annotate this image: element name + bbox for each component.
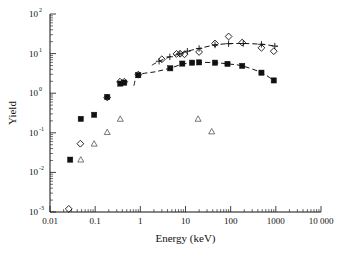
data-point-square — [180, 61, 185, 66]
data-point-square — [196, 60, 201, 65]
series-open-triangles — [78, 116, 215, 162]
y-tick-label: 10 — [29, 49, 39, 59]
fit-curve-lower-fit-curve — [134, 62, 276, 85]
x-tick-label: 0.01 — [42, 216, 58, 226]
data-point-diamond — [65, 205, 72, 212]
data-point-square — [168, 66, 173, 71]
data-point-square — [271, 78, 276, 83]
data-point-square — [240, 63, 245, 68]
x-axis-label-text: Energy (keV) — [156, 232, 216, 245]
x-axis-tick-labels: 0.010.1110100100010 000 — [42, 216, 334, 226]
data-point-triangle — [104, 129, 110, 134]
y-axis-tick-labels: 10-310-210-1100101102 — [29, 7, 44, 217]
data-point-triangle — [117, 116, 123, 121]
data-point-square — [190, 60, 195, 65]
y-tick-exponent: 0 — [39, 86, 42, 92]
data-point-triangle — [195, 116, 201, 121]
y-axis-title: Yield — [6, 101, 18, 125]
y-tick-label: 10 — [29, 9, 39, 19]
y-tick-exponent: 1 — [39, 47, 42, 53]
x-tick-label: 10 000 — [309, 216, 334, 226]
y-tick-exponent: 2 — [39, 7, 42, 13]
data-point-diamond — [77, 140, 84, 147]
data-point-diamond — [270, 48, 277, 55]
y-axis-ticks — [50, 14, 56, 212]
series-open-diamonds — [65, 33, 277, 212]
x-tick-label: 1 — [138, 216, 143, 226]
x-tick-label: 100 — [224, 216, 238, 226]
data-point-square — [68, 157, 73, 162]
data-point-square — [92, 112, 97, 117]
data-point-square — [212, 60, 217, 65]
data-point-square — [259, 70, 264, 75]
x-axis-ticks — [50, 206, 321, 212]
y-tick-exponent: -2 — [39, 165, 44, 171]
data-point-square — [225, 61, 230, 66]
y-axis-label-text: Yield — [6, 101, 18, 125]
data-point-square — [78, 116, 83, 121]
y-tick-label: 10 — [29, 88, 39, 98]
chart-figure: 0.010.1110100100010 000Energy (keV)10-31… — [0, 0, 338, 260]
plot-canvas: 0.010.1110100100010 000Energy (keV)10-31… — [0, 0, 338, 260]
data-point-triangle — [209, 128, 215, 133]
data-point-triangle — [78, 157, 84, 162]
data-point-diamond — [239, 39, 246, 46]
x-tick-label: 10 — [181, 216, 191, 226]
y-tick-exponent: -3 — [39, 205, 44, 211]
x-axis-title: Energy (keV) — [156, 232, 216, 245]
axis-spines — [50, 14, 321, 212]
series-filled-squares — [68, 60, 277, 162]
y-tick-label: 10 — [29, 167, 39, 177]
data-point-triangle — [91, 141, 97, 146]
y-tick-label: 10 — [29, 128, 39, 138]
x-tick-label: 0.1 — [90, 216, 101, 226]
y-tick-label: 10 — [29, 207, 39, 217]
y-tick-exponent: -1 — [39, 126, 44, 132]
x-tick-label: 1000 — [267, 216, 286, 226]
data-point-diamond — [225, 33, 232, 40]
